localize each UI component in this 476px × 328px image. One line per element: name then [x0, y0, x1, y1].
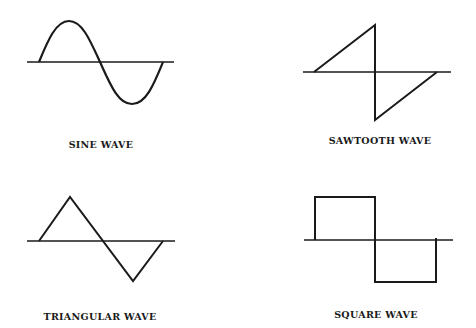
sine-wave-label: SINE WAVE [69, 139, 134, 150]
square-wave-diagram [304, 197, 453, 282]
square-wave-label: SQUARE WAVE [334, 309, 418, 320]
waveforms-canvas [0, 0, 476, 328]
sawtooth-wave-diagram [303, 25, 451, 120]
triangular-wave-label: TRIANGULAR WAVE [44, 311, 157, 322]
sawtooth-wave-label: SAWTOOTH WAVE [329, 135, 432, 146]
triangular-curve [39, 197, 163, 281]
triangular-wave-diagram [27, 197, 175, 281]
sine-wave-diagram [27, 21, 174, 104]
